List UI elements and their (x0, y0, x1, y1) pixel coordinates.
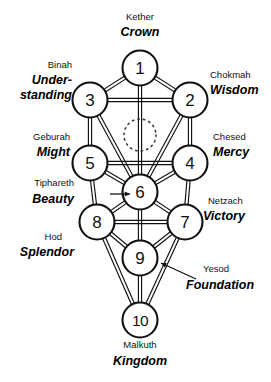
path-6-9 (138, 208, 141, 241)
path-7-9 (152, 231, 174, 249)
label-group-binah: BinahUnder-standing (20, 59, 72, 102)
label-english-malkuth: Kingdom (113, 354, 167, 368)
label-english-hod: Splendor (20, 245, 75, 259)
node-number-10: 10 (132, 312, 149, 329)
label-hebrew-chokmah: Chokmah (210, 69, 251, 80)
label-group-tiphareth: TipharethBeauty (32, 177, 75, 206)
tree-of-life-diagram: 12345678910 KetherCrownChokmahWisdomBina… (0, 0, 271, 382)
label-hebrew-yesod: Yesod (203, 263, 229, 274)
node-number-6: 6 (135, 183, 144, 202)
label-group-netzach: NetzachVictory (203, 195, 246, 223)
label-hebrew-malkuth: Malkuth (123, 339, 156, 350)
sephirah-node-9[interactable]: 9 (123, 241, 158, 276)
label-english-netzach: Victory (203, 209, 246, 223)
node-number-5: 5 (85, 154, 94, 173)
path-5-8 (90, 179, 96, 206)
path-4-7 (185, 179, 190, 206)
sephirah-node-5[interactable]: 5 (73, 146, 108, 181)
label-hebrew-binah: Binah (48, 59, 72, 70)
node-number-7: 7 (180, 213, 189, 232)
label-hebrew-tiphareth: Tiphareth (34, 177, 74, 188)
path-1-3 (103, 75, 127, 92)
label-group-chokmah: ChokmahWisdom (210, 69, 259, 97)
node-number-9: 9 (135, 249, 144, 268)
node-number-2: 2 (185, 91, 194, 110)
path-4-5 (106, 161, 173, 164)
daath-dotted-circle (124, 119, 156, 151)
label-hebrew-netzach: Netzach (208, 195, 243, 206)
sephirah-node-8[interactable]: 8 (80, 205, 115, 240)
path-7-8 (113, 220, 168, 223)
path-9-10 (138, 274, 141, 303)
sephirah-node-6[interactable]: 6 (123, 175, 158, 210)
label-english-yesod: Foundation (186, 278, 254, 292)
path-1-2 (153, 75, 177, 92)
node-number-4: 4 (185, 154, 194, 173)
sephirah-node-4[interactable]: 4 (173, 146, 208, 181)
sephirah-node-3[interactable]: 3 (73, 83, 108, 118)
label-group-chesed: ChesedMercy (213, 131, 250, 159)
sephirah-node-2[interactable]: 2 (173, 83, 208, 118)
path-3-5 (88, 116, 91, 146)
node-number-3: 3 (85, 91, 94, 110)
label-group-geburah: GeburahMight (33, 131, 71, 159)
label-hebrew-chesed: Chesed (213, 131, 246, 142)
path-2-3 (106, 98, 173, 101)
path-5-6 (103, 170, 126, 185)
label-english-binah: Under- (32, 73, 72, 87)
sephirah-node-10[interactable]: 10 (123, 303, 158, 338)
node-number-8: 8 (92, 213, 101, 232)
label-english2-binah: standing (20, 88, 72, 102)
sephirah-node-7[interactable]: 7 (168, 205, 203, 240)
label-english-kether: Crown (121, 25, 160, 39)
node-number-1: 1 (135, 59, 144, 78)
label-english-chokmah: Wisdom (210, 83, 259, 97)
label-hebrew-kether: Kether (126, 11, 154, 22)
path-4-6 (153, 170, 176, 185)
path-2-4 (188, 116, 191, 146)
label-english-tiphareth: Beauty (32, 192, 75, 206)
tree-of-life-canvas: 12345678910 KetherCrownChokmahWisdomBina… (0, 0, 271, 382)
label-hebrew-hod: Hod (45, 231, 62, 242)
nodes-layer: 12345678910 (73, 51, 208, 338)
label-english-geburah: Might (37, 145, 71, 159)
pointer-arrow-to-node-9 (161, 263, 196, 279)
label-group-yesod: YesodFoundation (186, 263, 254, 292)
sephirah-node-1[interactable]: 1 (123, 51, 158, 86)
label-hebrew-geburah: Geburah (33, 131, 70, 142)
path-8-9 (108, 231, 128, 249)
label-group-hod: HodSplendor (20, 231, 75, 259)
label-group-kether: KetherCrown (121, 11, 160, 39)
label-english-chesed: Mercy (213, 145, 250, 159)
label-group-malkuth: MalkuthKingdom (113, 339, 167, 368)
